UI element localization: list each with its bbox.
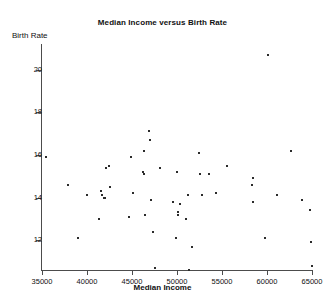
y-tick-label: 14 bbox=[16, 194, 42, 202]
data-point bbox=[215, 192, 217, 194]
data-point bbox=[67, 184, 69, 186]
x-tick-mark bbox=[222, 270, 223, 275]
data-point bbox=[149, 139, 151, 141]
data-point bbox=[264, 237, 266, 239]
data-point bbox=[176, 171, 178, 173]
data-point bbox=[86, 194, 88, 196]
plot-data-area bbox=[0, 0, 325, 300]
data-point bbox=[105, 167, 107, 169]
data-point bbox=[187, 194, 189, 196]
x-tick-mark bbox=[87, 270, 88, 275]
x-tick-mark bbox=[267, 270, 268, 275]
x-tick-mark bbox=[312, 270, 313, 275]
x-tick-mark bbox=[42, 270, 43, 275]
x-axis-label: Median Income bbox=[0, 283, 325, 292]
data-point bbox=[177, 211, 179, 213]
y-tick-18: 18 bbox=[0, 112, 42, 113]
data-point bbox=[198, 152, 200, 154]
data-point bbox=[100, 190, 102, 192]
data-point bbox=[191, 246, 193, 248]
x-tick-mark bbox=[132, 270, 133, 275]
data-point bbox=[104, 197, 106, 199]
y-tick-label: 12 bbox=[16, 236, 42, 244]
data-point bbox=[128, 216, 130, 218]
y-tick-12: 12 bbox=[0, 240, 42, 241]
data-point bbox=[252, 201, 254, 203]
data-point bbox=[309, 209, 311, 211]
chart-title: Median Income versus Birth Rate bbox=[0, 18, 325, 27]
data-point bbox=[311, 265, 313, 267]
data-point bbox=[98, 218, 100, 220]
data-point bbox=[143, 173, 145, 175]
data-point bbox=[148, 130, 150, 132]
x-tick-mark bbox=[177, 270, 178, 275]
data-point bbox=[175, 237, 177, 239]
data-point bbox=[108, 165, 110, 167]
data-point bbox=[201, 194, 203, 196]
scatter-plot-figure: Median Income versus Birth Rate Birth Ra… bbox=[0, 0, 325, 300]
y-tick-16: 16 bbox=[0, 155, 42, 156]
data-point bbox=[177, 214, 179, 216]
data-point bbox=[301, 199, 303, 201]
y-tick-20: 20 bbox=[0, 70, 42, 71]
data-point bbox=[150, 199, 152, 201]
data-point bbox=[154, 267, 156, 269]
data-point bbox=[142, 171, 144, 173]
data-point bbox=[143, 150, 145, 152]
data-point bbox=[101, 194, 103, 196]
y-axis-label: Birth Rate bbox=[12, 31, 48, 40]
data-point bbox=[252, 177, 254, 179]
data-point bbox=[45, 156, 47, 158]
data-point bbox=[185, 218, 187, 220]
data-point bbox=[226, 165, 228, 167]
y-tick-label: 16 bbox=[16, 151, 42, 159]
data-point bbox=[130, 156, 132, 158]
data-point bbox=[251, 184, 253, 186]
y-tick-14: 14 bbox=[0, 198, 42, 199]
data-point bbox=[290, 150, 292, 152]
data-point bbox=[199, 173, 201, 175]
data-point bbox=[152, 231, 154, 233]
data-point bbox=[109, 186, 111, 188]
data-point bbox=[172, 201, 174, 203]
data-point bbox=[144, 214, 146, 216]
data-point bbox=[310, 241, 312, 243]
data-point bbox=[159, 167, 161, 169]
data-point bbox=[208, 173, 210, 175]
data-point bbox=[77, 237, 79, 239]
data-point bbox=[132, 192, 134, 194]
data-point bbox=[276, 194, 278, 196]
data-point bbox=[267, 54, 269, 56]
y-tick-label: 18 bbox=[16, 108, 42, 116]
data-point bbox=[179, 203, 181, 205]
data-point bbox=[103, 197, 105, 199]
y-tick-label: 20 bbox=[16, 66, 42, 74]
